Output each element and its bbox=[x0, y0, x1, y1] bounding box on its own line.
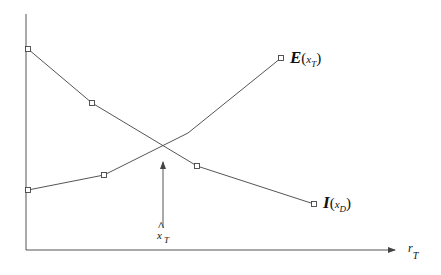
data-point bbox=[102, 173, 107, 178]
data-point bbox=[90, 101, 95, 106]
data-point bbox=[279, 56, 284, 61]
data-point bbox=[195, 164, 200, 169]
equilibrium-sub: T bbox=[164, 235, 169, 245]
equilibrium-label: ^ x T bbox=[156, 221, 176, 245]
curve-e-label: E(xT) bbox=[290, 48, 321, 69]
data-point bbox=[26, 188, 31, 193]
equilibrium-var: x bbox=[157, 230, 162, 240]
curve-e-markers bbox=[26, 56, 284, 193]
curve-e bbox=[28, 58, 281, 190]
curve-i bbox=[28, 49, 314, 204]
data-point bbox=[26, 47, 31, 52]
curve-e-label-main: E bbox=[290, 48, 301, 67]
x-axis-label: rT bbox=[408, 238, 418, 258]
curve-i-label: I(xD) bbox=[323, 193, 351, 214]
curve-i-label-main: I bbox=[323, 193, 330, 212]
diagram-canvas bbox=[0, 0, 441, 275]
data-point bbox=[312, 202, 317, 207]
curve-i-markers bbox=[26, 47, 317, 207]
